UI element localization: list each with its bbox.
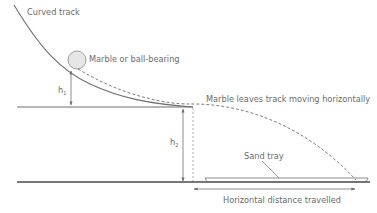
h2-label: h2 — [170, 137, 178, 148]
marble-label: Marble or ball-bearing — [89, 54, 180, 64]
h1-label: h1 — [58, 85, 66, 96]
sand-tray-pointer — [262, 161, 279, 178]
projectile-diagram: h1 h2 Curved track Marble or ball-bearin… — [0, 0, 377, 213]
sand-tray-label: Sand tray — [244, 151, 284, 161]
marble — [68, 51, 86, 69]
leaves-track-label: Marble leaves track moving horizontally — [206, 94, 370, 104]
horizontal-distance-label: Horizontal distance travelled — [223, 195, 341, 205]
marble-trajectory — [78, 69, 356, 180]
curved-track-label: Curved track — [27, 7, 80, 17]
